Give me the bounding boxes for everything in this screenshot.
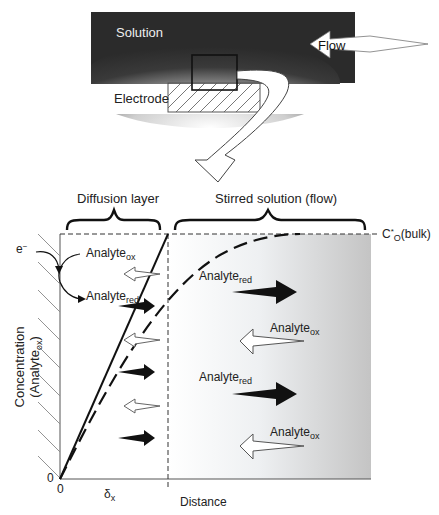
delta-sub: x (111, 493, 116, 503)
diffusion-red-arrows (118, 298, 155, 446)
y-axis-label-line2-tail: ) (27, 336, 42, 340)
analyte-sub: ox (310, 431, 320, 441)
analyte-text: Analyte (270, 321, 310, 335)
analyte-ox-surface-label: Analyteox (86, 247, 136, 259)
diffusion-ox-arrows (124, 267, 160, 413)
y-axis-label: Concentration (Analyteox) (12, 302, 42, 432)
diffusion-layer-label: Diffusion layer (77, 192, 159, 205)
analyte-sub: ox (310, 327, 320, 337)
analyte-sub: red (239, 376, 252, 386)
diagram-canvas (0, 0, 439, 515)
stirred-solution-label: Stirred solution (flow) (215, 192, 337, 205)
analyte-red-surface-label: Analytered (86, 290, 139, 302)
x-origin-label: 0 (57, 483, 64, 495)
bulk-o: O (394, 233, 401, 243)
analyte-ox-stirred-label-1: Analyteox (270, 322, 320, 334)
reduction-arrowhead (78, 295, 86, 303)
analyte-text: Analyte (86, 246, 126, 260)
y-origin-label: 0 (47, 472, 54, 484)
electron-label: e− (16, 243, 27, 255)
analyte-red-stirred-label-2: Analytered (199, 371, 252, 383)
stirred-solution-brace (175, 210, 365, 230)
bulk-c: C (382, 227, 391, 241)
analyte-sub: red (239, 275, 252, 285)
analyte-text: Analyte (199, 269, 239, 283)
bulk-concentration-label: C*O(bulk) (382, 228, 431, 240)
linear-concentration-profile (60, 234, 168, 479)
analyte-text: Analyte (86, 289, 126, 303)
analyte-sub: red (126, 295, 139, 305)
delta-x-label: δx (104, 488, 115, 500)
y-axis-label-line2: (Analyteox) (27, 302, 42, 432)
oxidation-to-reduction-arrow (59, 254, 80, 299)
y-axis-label-line2-main: (Analyte (27, 350, 42, 398)
diffusion-layer-brace (67, 210, 160, 230)
analyte-sub: ox (126, 252, 136, 262)
electron-e: e (16, 242, 23, 256)
flow-label: Flow (318, 39, 345, 52)
electron-transfer-arrow (36, 252, 59, 270)
solution-label: Solution (116, 26, 163, 39)
diffusion-layer-diagram: Solution Flow Electrode Diffusion layer … (0, 0, 439, 515)
x-axis-label: Distance (180, 496, 227, 508)
analyte-ox-stirred-label-2: Analyteox (270, 426, 320, 438)
bulk-tail: (bulk) (401, 227, 431, 241)
electron-minus: − (23, 242, 28, 251)
electrode (168, 83, 260, 112)
analyte-text: Analyte (270, 425, 310, 439)
electrode-label: Electrode (114, 92, 169, 105)
y-axis-label-line1: Concentration (12, 302, 27, 432)
delta-symbol: δ (104, 487, 111, 501)
analyte-text: Analyte (199, 370, 239, 384)
y-axis-label-line2-sub: ox (34, 341, 44, 351)
analyte-red-stirred-label-1: Analytered (199, 270, 252, 282)
